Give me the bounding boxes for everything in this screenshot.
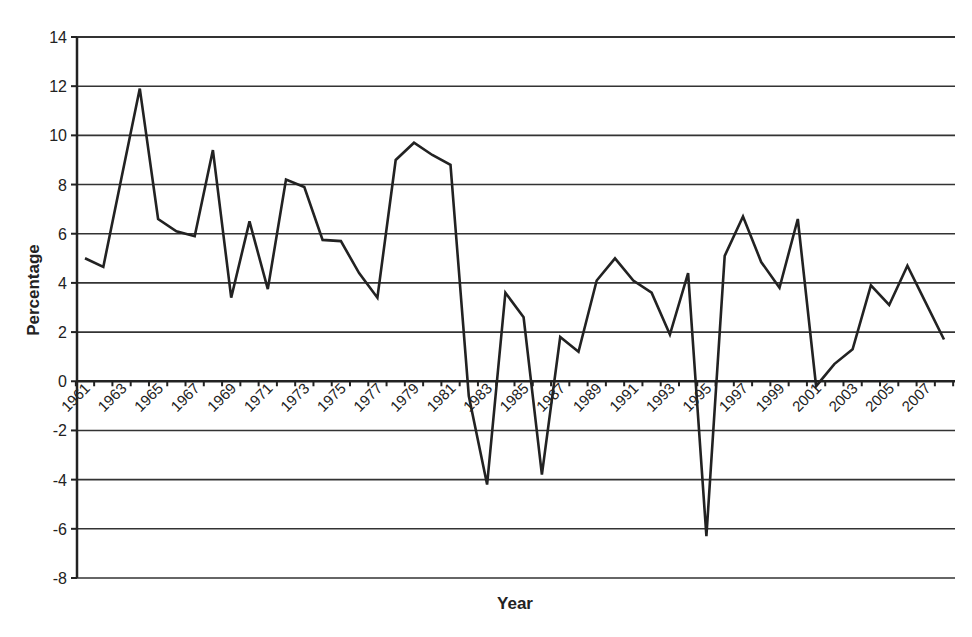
x-tick-label: 1963 [94, 379, 130, 415]
x-tick-label: 1969 [204, 379, 240, 415]
y-axis-title: Percentage [24, 244, 43, 336]
x-tick-label: 1979 [386, 379, 422, 415]
y-tick-label: 2 [58, 324, 67, 341]
x-tick-label: 2003 [825, 379, 861, 415]
x-tick-label: 1985 [496, 379, 532, 415]
y-tick-label: -6 [53, 521, 67, 538]
x-tick-label: 1983 [460, 379, 496, 415]
y-tick-label: -8 [53, 570, 67, 587]
x-tick-label: 1999 [752, 379, 788, 415]
y-axis-ticks: 14121086420-2-4-6-8 [49, 29, 77, 587]
x-tick-label: 1989 [569, 379, 605, 415]
y-tick-label: 8 [58, 177, 67, 194]
x-tick-label: 2007 [898, 379, 934, 415]
y-tick-label: 14 [49, 29, 67, 46]
y-tick-label: 0 [58, 373, 67, 390]
y-tick-label: 12 [49, 78, 67, 95]
y-tick-label: -4 [53, 472, 67, 489]
series-line-percentage [85, 89, 944, 537]
x-tick-label: 1973 [277, 379, 313, 415]
x-tick-label: 1977 [350, 379, 386, 415]
y-tick-label: 10 [49, 127, 67, 144]
x-tick-label: 1991 [606, 379, 642, 415]
x-tick-label: 1997 [715, 379, 751, 415]
x-tick-label: 1965 [131, 379, 167, 415]
x-tick-label: 2005 [862, 379, 898, 415]
y-tick-label: 6 [58, 226, 67, 243]
x-tick-label: 1967 [167, 379, 203, 415]
x-axis-title: Year [497, 594, 533, 613]
x-tick-label: 1971 [240, 379, 276, 415]
line-chart: 14121086420-2-4-6-8 19611963196519671969… [0, 0, 972, 637]
x-tick-label: 1975 [313, 379, 349, 415]
x-tick-label: 1981 [423, 379, 459, 415]
y-tick-label: 4 [58, 275, 67, 292]
y-tick-label: -2 [53, 422, 67, 439]
x-tick-label: 1993 [642, 379, 678, 415]
